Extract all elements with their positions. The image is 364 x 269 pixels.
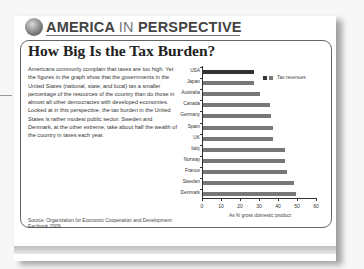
bar xyxy=(203,148,285,152)
x-tick-label: 10 xyxy=(218,203,224,209)
category-label: Spain xyxy=(188,124,200,129)
y-tick xyxy=(200,145,202,146)
category-label: Denmark xyxy=(181,190,200,195)
bar xyxy=(203,170,287,174)
category-label: Sweden xyxy=(183,179,200,184)
category-label: UK xyxy=(193,135,200,140)
header-word-america: AMERICA xyxy=(46,19,115,35)
feature-title: How Big Is the Tax Burden? xyxy=(28,42,215,60)
bar xyxy=(203,81,254,85)
header-word-perspective: PERSPECTIVE xyxy=(138,19,242,35)
y-tick xyxy=(200,78,202,79)
category-label: Germany xyxy=(180,112,200,117)
page-shadow xyxy=(14,246,336,254)
y-tick xyxy=(200,89,202,90)
y-tick xyxy=(200,123,202,124)
legend-label: Tax revenues xyxy=(277,75,306,80)
legend-swatch-dark xyxy=(263,76,267,80)
y-tick xyxy=(200,156,202,157)
legend: Tax revenues xyxy=(263,75,306,80)
category-label: Japan xyxy=(187,79,200,84)
x-tick-label: 30 xyxy=(256,203,262,209)
bar xyxy=(203,126,273,130)
x-tick xyxy=(278,198,279,201)
y-tick xyxy=(200,167,202,168)
y-tick xyxy=(200,67,202,68)
y-tick xyxy=(200,189,202,190)
category-label: Italy xyxy=(191,146,200,151)
bar-chart: USAJapanAustraliaCanadaGermanySpainUKIta… xyxy=(170,62,330,224)
x-tick xyxy=(221,198,222,201)
y-tick xyxy=(200,178,202,179)
chart-row: Japan xyxy=(170,78,330,88)
category-label: Norway xyxy=(184,157,200,162)
chart-row: France xyxy=(170,167,330,177)
y-tick xyxy=(200,100,202,101)
bar xyxy=(203,103,270,107)
chart-row: Italy xyxy=(170,145,330,155)
bar xyxy=(203,70,254,74)
feature-body: Americans commonly complain that taxes a… xyxy=(28,65,178,140)
x-tick xyxy=(202,198,203,201)
y-tick xyxy=(200,134,202,135)
chart-row: USA xyxy=(170,67,330,77)
bar xyxy=(203,92,260,96)
chart-row: Germany xyxy=(170,111,330,121)
x-tick xyxy=(316,198,317,201)
chart-row: Denmark xyxy=(170,189,330,199)
header-underline xyxy=(46,35,240,36)
header-word-in: IN xyxy=(119,19,134,35)
x-tick-label: 40 xyxy=(275,203,281,209)
x-tick xyxy=(259,198,260,201)
chart-row: Norway xyxy=(170,156,330,166)
category-label: Canada xyxy=(183,101,200,106)
category-label: France xyxy=(185,168,200,173)
source-note: Source: Organization for Economic Cooper… xyxy=(28,218,183,230)
x-tick xyxy=(297,198,298,201)
section-header: AMERICA IN PERSPECTIVE xyxy=(46,19,242,35)
chart-row: Spain xyxy=(170,123,330,133)
bar xyxy=(203,181,294,185)
legend-swatch-light xyxy=(269,76,273,80)
bar xyxy=(203,137,273,141)
x-tick-label: 20 xyxy=(237,203,243,209)
bar xyxy=(203,159,285,163)
x-axis-label: As % gross domestic product xyxy=(229,213,291,218)
x-tick-label: 50 xyxy=(294,203,300,209)
x-tick xyxy=(240,198,241,201)
category-label: USA xyxy=(190,68,200,73)
x-tick-label: 60 xyxy=(313,203,319,209)
chart-row: Canada xyxy=(170,100,330,110)
bar xyxy=(203,114,271,118)
margin-rule xyxy=(0,95,12,96)
globe-icon xyxy=(25,18,43,36)
y-tick xyxy=(200,111,202,112)
chart-row: UK xyxy=(170,134,330,144)
bar xyxy=(203,192,296,196)
category-label: Australia xyxy=(181,90,200,95)
x-tick-label: 0 xyxy=(201,203,204,209)
chart-row: Australia xyxy=(170,89,330,99)
chart-row: Sweden xyxy=(170,178,330,188)
